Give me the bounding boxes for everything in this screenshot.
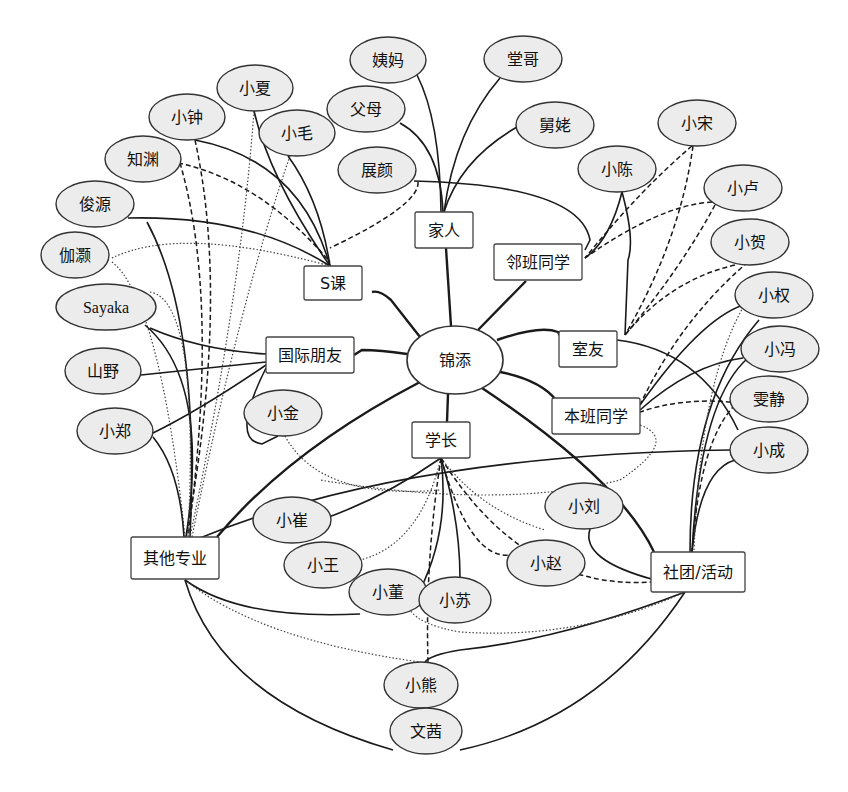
node-label: 其他专业 bbox=[143, 549, 207, 568]
person-node-xiaoxiong[interactable]: 小熊 bbox=[384, 662, 458, 708]
person-node-xiaocui[interactable]: 小崔 bbox=[253, 497, 331, 543]
node-label: 社团/活动 bbox=[663, 563, 732, 582]
group-node-other_majors[interactable]: 其他专业 bbox=[131, 537, 219, 579]
node-label: 姨妈 bbox=[372, 51, 404, 70]
node-label: 邻班同学 bbox=[506, 253, 570, 272]
person-node-junyuan[interactable]: 俊源 bbox=[56, 181, 134, 227]
person-node-xiaodong[interactable]: 小董 bbox=[349, 569, 427, 615]
node-label: 国际朋友 bbox=[278, 346, 342, 365]
person-node-xiaozhao[interactable]: 小赵 bbox=[507, 540, 585, 586]
person-node-zhiyuan[interactable]: 知渊 bbox=[105, 136, 181, 182]
group-node-seniors[interactable]: 学长 bbox=[412, 422, 470, 458]
edge-thick bbox=[372, 292, 420, 337]
edge-solid bbox=[147, 222, 192, 537]
person-node-fumu[interactable]: 父母 bbox=[327, 86, 405, 132]
node-label: 俊源 bbox=[79, 195, 111, 214]
person-node-xiaoliu[interactable]: 小刘 bbox=[545, 483, 623, 529]
center-node-jintian[interactable]: 锦添 bbox=[407, 326, 503, 394]
edge-thick bbox=[446, 248, 451, 326]
node-label: 本班同学 bbox=[564, 407, 628, 426]
person-node-xiaosong[interactable]: 小宋 bbox=[658, 100, 736, 146]
person-node-tangge[interactable]: 堂哥 bbox=[484, 36, 562, 82]
node-label: 舅姥 bbox=[539, 116, 571, 135]
node-label: 小成 bbox=[753, 441, 785, 460]
person-node-xiaochen[interactable]: 小陈 bbox=[578, 146, 656, 192]
edge-thick bbox=[497, 330, 562, 340]
person-node-xiaowang[interactable]: 小王 bbox=[284, 542, 362, 588]
group-node-clubs[interactable]: 社团/活动 bbox=[651, 552, 745, 592]
edge-dotted bbox=[150, 292, 190, 537]
edge-dotted bbox=[360, 458, 441, 560]
group-node-neighbor_class[interactable]: 邻班同学 bbox=[494, 244, 582, 280]
person-node-xiaofeng[interactable]: 小冯 bbox=[741, 326, 819, 372]
edge-solid bbox=[585, 192, 622, 258]
node-label: 小崔 bbox=[276, 511, 308, 530]
person-node-xiaohe[interactable]: 小贺 bbox=[711, 219, 789, 265]
edge-thick bbox=[354, 350, 407, 355]
edge-solid bbox=[417, 75, 441, 212]
edge-dashed bbox=[585, 202, 712, 258]
person-node-xiaozhong[interactable]: 小钟 bbox=[149, 94, 225, 140]
node-label: 小金 bbox=[267, 404, 299, 423]
node-label: 小郑 bbox=[99, 422, 131, 441]
edge-solid bbox=[128, 218, 330, 266]
edge-thick bbox=[447, 394, 448, 422]
edge-dashed bbox=[428, 458, 441, 662]
node-label: 山野 bbox=[87, 362, 119, 381]
node-label: 小陈 bbox=[601, 160, 633, 179]
edge-solid bbox=[420, 458, 443, 590]
person-node-xiaozheng[interactable]: 小郑 bbox=[77, 408, 153, 454]
node-label: 学长 bbox=[425, 431, 457, 450]
node-label: 小冯 bbox=[764, 340, 796, 359]
person-node-yima[interactable]: 姨妈 bbox=[350, 37, 426, 83]
person-node-xiaosu[interactable]: 小苏 bbox=[419, 577, 491, 623]
person-node-xiaoquan[interactable]: 小权 bbox=[735, 272, 813, 318]
group-node-s_course[interactable]: S课 bbox=[304, 266, 362, 300]
edge-dotted bbox=[441, 458, 545, 530]
node-label: 小赵 bbox=[530, 554, 562, 573]
node-label: 小夏 bbox=[239, 79, 271, 98]
person-node-wenxi[interactable]: 文茜 bbox=[390, 708, 462, 754]
person-node-xiaocheng[interactable]: 小成 bbox=[730, 427, 808, 473]
person-node-zhanyan[interactable]: 展颜 bbox=[338, 147, 416, 193]
edge-solid bbox=[444, 127, 517, 212]
edge-solid bbox=[692, 460, 735, 552]
group-node-own_class[interactable]: 本班同学 bbox=[552, 398, 640, 434]
node-label: 小权 bbox=[758, 286, 790, 305]
edge-solid bbox=[141, 362, 266, 375]
person-node-xiaojin[interactable]: 小金 bbox=[244, 390, 322, 436]
group-node-roommates[interactable]: 室友 bbox=[559, 331, 617, 367]
edges-layer bbox=[112, 75, 759, 750]
node-label: 小王 bbox=[307, 556, 339, 575]
node-label: 小钟 bbox=[171, 108, 203, 127]
nodes-layer: 姨妈堂哥小夏父母舅姥小宋小钟小毛知渊展颜小陈小卢俊源伽灏小贺Sayaka小权山野… bbox=[41, 36, 819, 754]
edge-dotted bbox=[320, 425, 656, 495]
node-label: 小熊 bbox=[405, 676, 437, 695]
group-node-intl_friends[interactable]: 国际朋友 bbox=[266, 337, 354, 373]
node-label: 小苏 bbox=[439, 591, 471, 610]
person-node-xiaxia[interactable]: 小夏 bbox=[217, 65, 293, 111]
edge-dashed bbox=[625, 205, 715, 335]
node-label: 小贺 bbox=[734, 233, 766, 252]
edge-thick bbox=[500, 372, 556, 400]
group-node-family[interactable]: 家人 bbox=[415, 212, 473, 248]
person-node-xiaolu[interactable]: 小卢 bbox=[704, 165, 782, 211]
person-node-shanye[interactable]: 山野 bbox=[65, 348, 141, 394]
edge-thick bbox=[478, 281, 526, 330]
edge-solid bbox=[195, 140, 330, 266]
person-node-xiaomao[interactable]: 小毛 bbox=[259, 110, 335, 156]
node-label: 小毛 bbox=[281, 124, 313, 143]
person-node-jiujiu[interactable]: 舅姥 bbox=[516, 102, 594, 148]
social-network-diagram: 姨妈堂哥小夏父母舅姥小宋小钟小毛知渊展颜小陈小卢俊源伽灏小贺Sayaka小权山野… bbox=[0, 0, 848, 792]
node-label: 室友 bbox=[572, 340, 604, 359]
node-label: 小卢 bbox=[727, 179, 759, 198]
edge-dotted bbox=[190, 111, 254, 537]
person-node-wenjing[interactable]: 雯静 bbox=[730, 376, 808, 422]
edge-dashed bbox=[625, 265, 735, 335]
node-label: 小刘 bbox=[568, 497, 600, 516]
node-label: 小宋 bbox=[681, 114, 713, 133]
edge-solid bbox=[460, 592, 685, 750]
person-node-sayaka[interactable]: Sayaka bbox=[56, 284, 156, 330]
person-node-jiahao[interactable]: 伽灏 bbox=[41, 232, 109, 278]
node-label: 展颜 bbox=[361, 161, 393, 180]
